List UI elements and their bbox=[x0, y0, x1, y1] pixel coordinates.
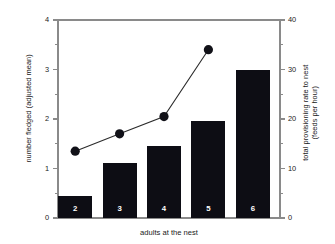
bar-category-label: 2 bbox=[58, 205, 92, 213]
bar-series bbox=[58, 70, 270, 219]
y-axis-right-ticks bbox=[280, 20, 285, 218]
data-point-marker bbox=[159, 112, 168, 121]
y-axis-left-ticks bbox=[53, 20, 58, 218]
y-right-tick-label: 20 bbox=[288, 115, 306, 122]
bar-category-label: 6 bbox=[236, 205, 270, 213]
bar bbox=[236, 70, 270, 219]
y-right-tick-label: 0 bbox=[288, 214, 306, 221]
line-path bbox=[75, 50, 208, 151]
y-left-tick-label: 2 bbox=[33, 115, 49, 122]
y-left-tick-label: 3 bbox=[33, 66, 49, 73]
data-point-marker bbox=[204, 45, 213, 54]
y-right-tick-label: 30 bbox=[288, 66, 306, 73]
bar-category-label: 5 bbox=[191, 205, 225, 213]
y-right-tick-label: 40 bbox=[288, 16, 306, 23]
data-point-marker bbox=[71, 147, 80, 156]
y-left-tick-label: 4 bbox=[33, 16, 49, 23]
data-point-marker bbox=[115, 129, 124, 138]
bar-category-label: 3 bbox=[103, 205, 137, 213]
chart-figure: number fledged (adjusted mean) total pro… bbox=[0, 0, 335, 244]
y-left-tick-label: 1 bbox=[33, 165, 49, 172]
y-left-tick-label: 0 bbox=[33, 214, 49, 221]
y-right-tick-label: 10 bbox=[288, 165, 306, 172]
bar-category-label: 4 bbox=[147, 205, 181, 213]
